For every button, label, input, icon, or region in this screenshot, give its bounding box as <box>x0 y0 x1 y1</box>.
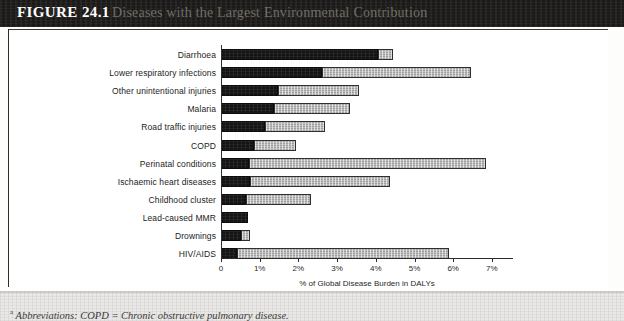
category-label: Malaria <box>0 104 216 114</box>
bar-segment-nonenvironmental <box>250 176 390 187</box>
category-label: Lower respiratory infections <box>0 68 216 78</box>
category-label: Diarrhoea <box>0 50 216 60</box>
stacked-bar <box>221 140 296 151</box>
x-axis-tick-label: 4% <box>370 264 382 273</box>
x-axis-tick <box>415 258 416 262</box>
bar-segment-nonenvironmental <box>249 158 486 169</box>
x-axis-tick-label: 0 <box>219 264 223 273</box>
bar-segment-nonenvironmental <box>378 49 393 60</box>
bar-segment-nonenvironmental <box>246 194 311 205</box>
x-axis-tick-label: 1% <box>254 264 266 273</box>
x-axis-tick-label: 5% <box>409 264 421 273</box>
x-axis-tick-label: 6% <box>447 264 459 273</box>
stacked-bar <box>221 212 248 223</box>
stacked-bar <box>221 194 311 205</box>
figure-footnote: a Abbreviations: COPD = Chronic obstruct… <box>10 308 289 321</box>
bar-segment-environmental <box>221 158 249 169</box>
bar-segment-environmental <box>221 121 265 132</box>
category-label: HIV/AIDS <box>0 249 216 259</box>
x-axis-tick <box>492 258 493 262</box>
footnote-text: Abbreviations: COPD = Chronic obstructiv… <box>16 310 289 321</box>
bar-segment-environmental <box>221 212 248 223</box>
bar-segment-nonenvironmental <box>322 67 471 78</box>
category-label: Perinatal conditions <box>0 159 216 169</box>
bar-segment-environmental <box>221 85 278 96</box>
bar-segment-environmental <box>221 230 241 241</box>
x-axis-tick-label: 3% <box>331 264 343 273</box>
stacked-bar <box>221 103 350 114</box>
stacked-bar <box>221 121 325 132</box>
category-label: Ischaemic heart diseases <box>0 177 216 187</box>
category-label: COPD <box>0 141 216 151</box>
x-axis-title: % of Global Disease Burden in DALYs <box>221 279 513 288</box>
stacked-bar <box>221 49 393 60</box>
x-axis-tick <box>453 258 454 262</box>
category-label: Drownings <box>0 231 216 241</box>
x-axis-tick <box>337 258 338 262</box>
x-axis-tick <box>221 258 222 262</box>
footnote-rule <box>0 291 624 293</box>
bar-segment-environmental <box>221 194 246 205</box>
category-label: Other unintentional injuries <box>0 86 216 96</box>
bar-segment-nonenvironmental <box>265 121 325 132</box>
bar-segment-environmental <box>221 103 274 114</box>
category-label: Childhood cluster <box>0 195 216 205</box>
stacked-bar <box>221 67 471 78</box>
stacked-bar <box>221 176 390 187</box>
footnote-marker: a <box>10 308 13 316</box>
bar-segment-environmental <box>221 49 378 60</box>
bar-segment-nonenvironmental <box>254 140 296 151</box>
stacked-bar <box>221 85 359 96</box>
x-axis-tick-label: 2% <box>293 264 305 273</box>
x-axis-tick <box>298 258 299 262</box>
bar-segment-environmental <box>221 176 250 187</box>
bar-chart: DiarrhoeaLower respiratory infectionsOth… <box>0 0 624 250</box>
x-axis-tick <box>376 258 377 262</box>
stacked-bar <box>221 230 250 241</box>
bar-segment-nonenvironmental <box>278 85 359 96</box>
bar-segment-nonenvironmental <box>274 103 350 114</box>
bar-segment-nonenvironmental <box>241 230 250 241</box>
x-axis-tick-label: 7% <box>486 264 498 273</box>
y-axis-line <box>221 45 222 258</box>
bar-segment-environmental <box>221 140 254 151</box>
stacked-bar <box>221 158 486 169</box>
x-axis-line <box>221 258 513 259</box>
bar-segment-environmental <box>221 67 322 78</box>
x-axis-tick <box>260 258 261 262</box>
category-label: Road traffic injuries <box>0 122 216 132</box>
category-label: Lead-caused MMR <box>0 213 216 223</box>
